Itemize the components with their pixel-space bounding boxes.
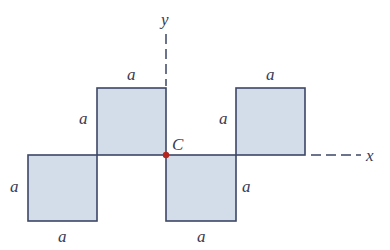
square-upper-left-side-label: a — [79, 109, 88, 128]
four-squares-diagram: y x a a a a a a a a C — [0, 0, 390, 250]
square-upper-left — [97, 88, 166, 155]
x-axis-label: x — [365, 146, 374, 165]
square-lower-left — [28, 155, 97, 221]
center-point-dot — [163, 152, 169, 158]
square-lower-right-bottom-label: a — [197, 227, 206, 246]
square-lower-left-bottom-label: a — [58, 227, 67, 246]
square-lower-right — [166, 155, 236, 221]
square-lower-right-side-label: a — [242, 177, 251, 196]
square-upper-right — [236, 88, 305, 155]
square-upper-left-top-label: a — [127, 65, 136, 84]
square-upper-right-top-label: a — [266, 65, 275, 84]
y-axis-label: y — [159, 10, 169, 29]
square-lower-left-side-label: a — [10, 177, 19, 196]
center-point-label: C — [172, 135, 184, 154]
square-upper-right-side-label: a — [219, 109, 228, 128]
